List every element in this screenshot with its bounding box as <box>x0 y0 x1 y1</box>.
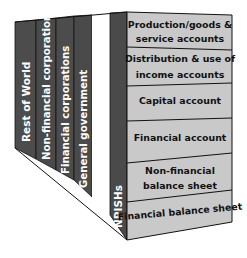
account-label: income accounts <box>136 69 225 80</box>
sector-label: General government <box>78 70 89 188</box>
account-label: service accounts <box>136 33 225 44</box>
account-label: Financial account <box>134 132 227 143</box>
sector-label: Non-financial corporations <box>41 8 52 160</box>
sector-label: Financial corporations <box>60 46 71 174</box>
account-label: Non-financial <box>145 165 215 176</box>
account-label: Production/goods & <box>128 19 232 30</box>
sector-stripe-gap <box>92 13 110 215</box>
sector-label: Rest of World <box>20 62 32 142</box>
account-label: balance sheet <box>143 180 217 191</box>
account-label: Distribution & use of <box>125 53 236 64</box>
account-label: Capital account <box>139 95 222 106</box>
sector-accounts-diagram: Rest of World Non-financial corporations… <box>0 0 247 258</box>
